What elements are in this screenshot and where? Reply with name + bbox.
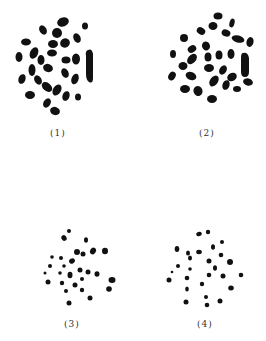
- chromosome-spread-3: [0, 200, 133, 315]
- panel-1-chromosome-spread: [0, 0, 133, 140]
- panel-2-chromosome-spread: [133, 0, 266, 140]
- chromosome-spread-4: [133, 200, 266, 315]
- panel-4-chromosome-spread: [133, 200, 266, 315]
- panel-4-label: (4): [197, 319, 213, 329]
- panel-3-label: (3): [64, 319, 80, 329]
- figure: (1): [0, 0, 266, 341]
- chromosome-spread-1: [0, 0, 133, 140]
- chromosome-spread-2: [133, 0, 266, 140]
- panel-1-label: (1): [50, 128, 66, 138]
- panel-2-label: (2): [199, 128, 215, 138]
- panel-3-chromosome-spread: [0, 200, 133, 315]
